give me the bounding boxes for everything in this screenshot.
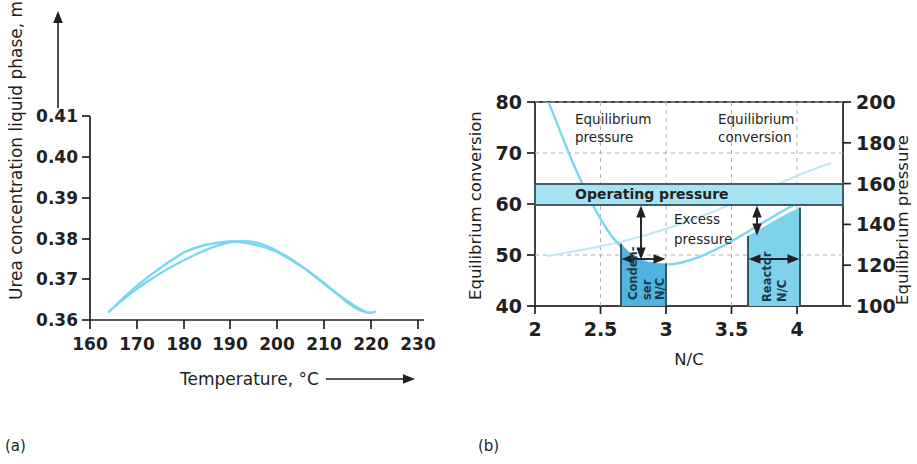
equilibrium-conversion-label-line1: Equilibrium [718, 111, 795, 127]
reactor-box-label-line2: N/C [775, 280, 789, 302]
equilibrium-pressure-label-line2: pressure [575, 129, 633, 145]
figure-svg: Urea concentration liquid phase, mass fr… [0, 0, 917, 464]
panel-b-xtick-3: 3 [659, 318, 672, 340]
panel-a-ytick-0.39: 0.39 [36, 188, 78, 208]
panel-b-ytick-80: 80 [496, 91, 522, 113]
operating-pressure-band: Operating pressure [535, 184, 843, 205]
panel-b-y2tick-200: 200 [856, 91, 896, 113]
panel-a-y-ticks [82, 116, 90, 320]
panel-b-y2tick-140: 140 [856, 213, 896, 235]
panel-a-ytick-0.36: 0.36 [36, 310, 78, 330]
equilibrium-conversion-label-line2: conversion [718, 129, 792, 145]
figure-container: Urea concentration liquid phase, mass fr… [0, 0, 917, 464]
panel-a-x-ticks [90, 320, 418, 329]
panel-b-y2tick-160: 160 [856, 173, 896, 195]
panel-a-xtick-220: 220 [353, 334, 389, 354]
panel-a-ytick-0.37: 0.37 [36, 269, 78, 289]
panel-a-ytick-0.41: 0.41 [36, 106, 78, 126]
panel-a-ytick-0.40: 0.40 [36, 147, 78, 167]
panel-b-ytick-50: 50 [496, 244, 522, 266]
x-axis-arrow-icon [326, 374, 415, 384]
panel-b-ytick-40: 40 [496, 295, 522, 317]
panel-b-xtick-2: 2 [528, 318, 541, 340]
panel-a-xtick-210: 210 [306, 334, 342, 354]
panel-a-xtick-180: 180 [166, 334, 202, 354]
condenser-box-label-line1: Conden- [626, 246, 640, 300]
panel-a-xtick-230: 230 [400, 334, 436, 354]
panel-b-y2tick-120: 120 [856, 254, 896, 276]
excess-pressure-label-line1: Excess [674, 211, 720, 227]
panel-b-caption: (b) [478, 437, 499, 455]
panel-a: Urea concentration liquid phase, mass fr… [5, 0, 436, 455]
panel-b-ytick-70: 70 [496, 142, 522, 164]
panel-a-x-axis-title: Temperature, °C [179, 369, 319, 389]
panel-b-xtick-4: 4 [790, 318, 803, 340]
panel-a-xtick-190: 190 [212, 334, 248, 354]
condenser-box-label-line3: N/C [653, 278, 667, 300]
panel-b-y-ticks [527, 102, 535, 306]
panel-a-xtick-200: 200 [259, 334, 295, 354]
excess-pressure-label-line2: pressure [674, 231, 732, 247]
panel-b-y2-axis-title: Equilibrium pressure [893, 135, 912, 305]
panel-a-caption: (a) [5, 437, 26, 455]
y-axis-arrow-icon [53, 11, 63, 108]
panel-b-x-ticks [535, 306, 797, 314]
panel-b-ytick-60: 60 [496, 193, 522, 215]
panel-a-xtick-160: 160 [72, 334, 108, 354]
panel-b-y-axis-title: Equilibrium conversion [466, 111, 485, 300]
equilibrium-pressure-label-line1: Equilibrium [575, 111, 652, 127]
reactor-box-label-line1: Reactor [760, 251, 774, 302]
panel-b-y2tick-180: 180 [856, 132, 896, 154]
panel-b-xtick-2.5: 2.5 [584, 318, 618, 340]
panel-b-y2tick-100: 100 [856, 295, 896, 317]
panel-b-y2-ticks [843, 102, 851, 306]
panel-b-x-axis-title: N/C [674, 350, 703, 369]
panel-a-ytick-0.38: 0.38 [36, 229, 78, 249]
panel-a-series-curve-precise [109, 241, 366, 312]
panel-b-xtick-3.5: 3.5 [715, 318, 749, 340]
condenser-box-label-line2: ser [640, 279, 654, 300]
operating-pressure-label: Operating pressure [575, 186, 729, 202]
panel-a-y-axis-title: Urea concentration liquid phase, mass fr… [6, 0, 26, 300]
panel-a-xtick-170: 170 [119, 334, 155, 354]
panel-b: Equilibrium conversion Equilibrium press… [466, 91, 912, 455]
